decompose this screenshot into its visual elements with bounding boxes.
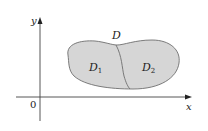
subregion-d2-main: D (141, 61, 151, 74)
x-axis-label: x (186, 101, 192, 112)
y-axis-arrow-icon (38, 17, 43, 24)
origin-label: 0 (30, 99, 36, 110)
region-d (68, 40, 179, 89)
region-d-label: D (111, 29, 121, 42)
subregion-d2-subscript: 2 (151, 67, 155, 75)
y-axis-label: y (30, 15, 37, 26)
subregion-d1-subscript: 1 (98, 67, 102, 75)
x-axis-arrow-icon (185, 95, 192, 100)
subregion-d1-main: D (88, 61, 98, 74)
diagram-canvas: y x 0 D D1 D2 (0, 0, 208, 131)
